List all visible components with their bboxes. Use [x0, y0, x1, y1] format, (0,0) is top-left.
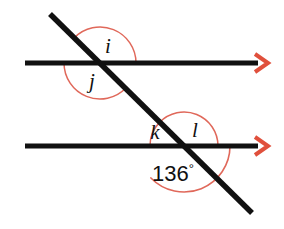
angle-label-l: l — [192, 118, 198, 142]
geometry-canvas: i j k l 136° — [0, 0, 284, 229]
label-group: i j k l 136° — [86, 34, 198, 186]
angle-label-i: i — [105, 34, 111, 58]
arrowhead-group — [255, 54, 268, 155]
angle-label-k: k — [150, 120, 160, 144]
degree-symbol-icon: ° — [189, 161, 194, 176]
angle-measure-value: 136 — [152, 161, 189, 186]
angle-measure-label-136: 136° — [152, 161, 194, 186]
geometry-diagram: i j k l 136° — [0, 0, 284, 229]
transversal-line — [50, 14, 252, 213]
angle-label-j: j — [86, 69, 95, 93]
line-group — [25, 14, 258, 213]
